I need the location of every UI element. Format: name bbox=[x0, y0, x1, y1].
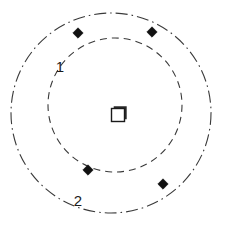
inner-ring-label: 1 bbox=[56, 58, 64, 75]
center-layer bbox=[112, 106, 127, 121]
orbit-diagram: 12 bbox=[0, 0, 239, 228]
inner-ring bbox=[48, 38, 182, 172]
labels-layer: 12 bbox=[56, 58, 82, 209]
marker-bottom-left bbox=[83, 165, 93, 175]
diagram-canvas: 12 bbox=[0, 0, 239, 228]
marker-top-right bbox=[147, 27, 157, 37]
marker-bottom-right bbox=[158, 179, 168, 189]
marker-top-left bbox=[73, 28, 83, 38]
center-node bbox=[112, 109, 125, 122]
outer-ring-label: 2 bbox=[74, 192, 82, 209]
